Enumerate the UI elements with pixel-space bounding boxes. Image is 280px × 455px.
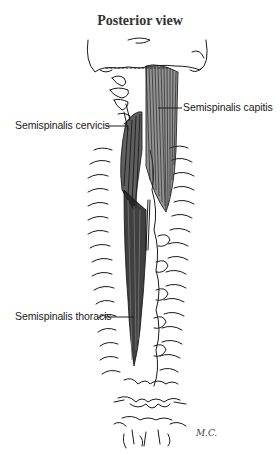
label-semispinalis-cervicis: Semispinalis cervicis [15,119,110,131]
semispinalis-capitis-muscle [146,65,178,212]
artist-signature: M.C. [196,428,217,438]
label-semispinalis-capitis: Semispinalis capitis [183,101,273,113]
lumbar-vertebrae [114,379,186,448]
spine-illustration [0,0,280,455]
ribs-left [88,148,120,374]
label-semispinalis-thoracis: Semispinalis thoracis [15,310,112,322]
semispinalis-thoracis-muscle [124,190,146,366]
